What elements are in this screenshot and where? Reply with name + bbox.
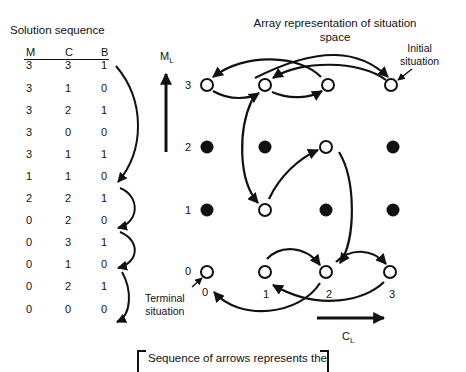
path-arrows bbox=[213, 55, 388, 311]
bracket-left bbox=[137, 350, 146, 372]
open-nodes bbox=[201, 79, 397, 278]
initial-leader bbox=[398, 69, 412, 80]
sequence-arcs bbox=[116, 66, 138, 322]
terminal-leader bbox=[192, 278, 202, 287]
filled-nodes bbox=[201, 141, 400, 217]
footer-note: Sequence of arrows represents the bbox=[148, 352, 327, 364]
